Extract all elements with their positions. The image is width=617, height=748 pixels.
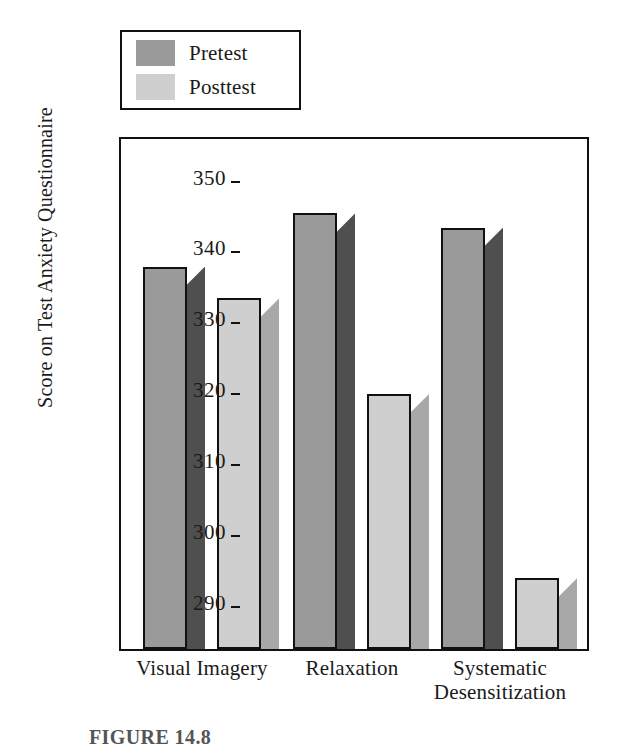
bar-front-face — [367, 394, 411, 649]
y-axis-tick-label: 350 — [193, 168, 226, 189]
y-axis-tick-mark — [231, 393, 240, 395]
bar-systematic-desensitization-pretest — [441, 228, 485, 649]
y-axis-tick-mark — [231, 606, 240, 608]
legend-entry-posttest: Posttest — [136, 73, 256, 101]
y-axis-tick-label: 340 — [193, 238, 226, 259]
bar-side-face — [485, 228, 503, 649]
bar-front-face — [143, 267, 187, 650]
x-axis-group-label: Systematic Desensitization — [390, 657, 610, 704]
y-axis-title: Score on Test Anxiety Questionnaire — [34, 8, 57, 508]
y-axis-tick-mark — [231, 322, 240, 324]
legend-entry-pretest: Pretest — [136, 39, 248, 67]
legend-label-posttest: Posttest — [189, 77, 256, 98]
y-axis-tick-label: 310 — [193, 451, 226, 472]
bar-systematic-desensitization-posttest — [515, 578, 559, 649]
bar-front-face — [441, 228, 485, 649]
legend-label-pretest: Pretest — [189, 43, 248, 64]
bar-side-face — [261, 298, 279, 649]
legend: Pretest Posttest — [120, 30, 301, 110]
y-axis-tick-label: 330 — [193, 309, 226, 330]
legend-swatch-posttest — [136, 74, 175, 100]
y-axis-tick-mark — [231, 251, 240, 253]
bar-side-face — [559, 578, 577, 649]
bar-relaxation-pretest — [293, 213, 337, 649]
bar-side-face — [411, 394, 429, 649]
figure-caption: FIGURE 14.8 — [89, 726, 211, 748]
plot-area — [121, 139, 587, 649]
y-axis-tick-mark — [231, 535, 240, 537]
bar-front-face — [293, 213, 337, 649]
y-axis-tick-label: 290 — [193, 593, 226, 614]
bar-relaxation-posttest — [367, 394, 411, 649]
plot-frame: 290300310320330340350 — [119, 137, 589, 651]
bar-front-face — [515, 578, 559, 649]
y-axis-tick-mark — [231, 181, 240, 183]
y-axis-tick-label: 320 — [193, 380, 226, 401]
legend-swatch-pretest — [136, 40, 175, 66]
bar-visual-imagery-pretest — [143, 267, 187, 650]
bar-side-face — [337, 213, 355, 649]
y-axis-tick-label: 300 — [193, 522, 226, 543]
y-axis-tick-mark — [231, 464, 240, 466]
